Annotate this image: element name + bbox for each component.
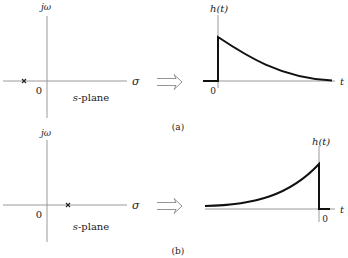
- splane-b: jω σ 0 s-plane: [3, 128, 140, 242]
- response-plot-a: h(t) t 0: [203, 3, 345, 96]
- h-label: h(t): [210, 3, 228, 14]
- caption-b: (b): [172, 246, 185, 256]
- caption-a: (a): [172, 122, 184, 132]
- t-label: t: [340, 204, 345, 215]
- implies-arrow-icon: [157, 75, 182, 90]
- splane-label: s-plane: [73, 92, 110, 103]
- h-label: h(t): [312, 136, 330, 147]
- origin-label: 0: [322, 214, 328, 224]
- splane-a: jω σ 0 s-plane: [3, 2, 140, 118]
- panel-b: jω σ 0 s-plane h(t) t 0 (b): [3, 128, 345, 256]
- origin-label: 0: [36, 209, 42, 220]
- jw-label: jω: [39, 2, 52, 12]
- sigma-label: σ: [132, 199, 140, 212]
- panel-a: jω σ 0 s-plane h(t) t 0 (a): [3, 2, 345, 132]
- response-plot-b: h(t) t 0: [205, 136, 345, 224]
- growing-exponential-curve: [205, 164, 330, 209]
- origin-label: 0: [210, 86, 216, 96]
- sigma-label: σ: [132, 75, 140, 88]
- origin-label: 0: [36, 85, 42, 96]
- splane-label: s-plane: [73, 221, 110, 232]
- jw-label: jω: [39, 128, 52, 138]
- t-label: t: [340, 76, 345, 87]
- decaying-exponential-curve: [203, 37, 332, 81]
- implies-arrow-icon: [157, 199, 182, 214]
- pole-location-diagram: jω σ 0 s-plane h(t) t 0 (a): [0, 0, 348, 258]
